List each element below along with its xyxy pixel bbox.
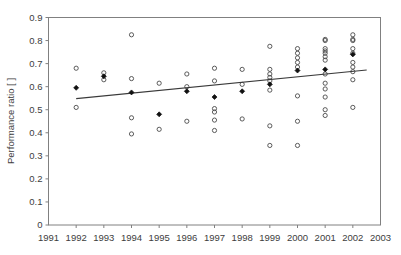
plot-area-frame <box>49 18 381 226</box>
y-axis-tick-label: 0.4 <box>29 127 42 138</box>
scatter-chart: 00.10.20.30.40.50.60.70.80.9 19911992199… <box>0 0 401 255</box>
y-axis-tick-label: 0.8 <box>29 35 42 46</box>
x-axis-tick-label: 2001 <box>315 232 336 243</box>
x-axis-tick-label: 1997 <box>204 232 225 243</box>
x-axis-tick-label: 1999 <box>259 232 280 243</box>
y-axis-tick-label: 0.7 <box>29 58 42 69</box>
y-axis-tick-label: 0 <box>37 219 42 230</box>
y-axis-tick-label: 0.2 <box>29 173 42 184</box>
x-axis-tick-label: 2002 <box>342 232 363 243</box>
y-axis-tick-label: 0.3 <box>29 150 42 161</box>
x-axis-tick-label: 1996 <box>176 232 197 243</box>
x-axis-tick-label: 1992 <box>66 232 87 243</box>
x-axis-tick-label: 2003 <box>370 232 391 243</box>
y-axis-title: Performance ratio [ ] <box>5 78 16 164</box>
x-axis-tick-label: 1993 <box>93 232 114 243</box>
y-axis-tick-label: 0.5 <box>29 104 42 115</box>
x-axis-tick-label: 1991 <box>38 232 59 243</box>
chart-container: 00.10.20.30.40.50.60.70.80.9 19911992199… <box>0 0 401 255</box>
x-axis-tick-label: 2000 <box>287 232 308 243</box>
y-axis-tick-label: 0.9 <box>29 12 42 23</box>
x-axis-tick-label: 1995 <box>149 232 170 243</box>
y-axis-tick-label: 0.6 <box>29 81 42 92</box>
y-axis-tick-label: 0.1 <box>29 196 42 207</box>
x-axis-tick-label: 1994 <box>121 232 142 243</box>
x-axis-tick-label: 1998 <box>232 232 253 243</box>
